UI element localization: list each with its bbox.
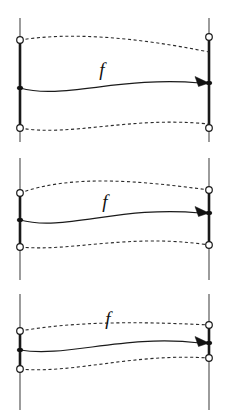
- endpoint-circle-right-top: [206, 322, 213, 329]
- map-curve: [20, 82, 200, 92]
- map-curve: [20, 211, 200, 223]
- endpoint-circle-left-top: [17, 328, 24, 335]
- dashed-curve-bottom: [20, 241, 209, 248]
- basepoint-dot-left: [17, 219, 22, 222]
- basepoint-dot-right: [206, 82, 211, 85]
- dashed-curve-bottom: [20, 357, 209, 370]
- basepoint-dot-left: [17, 349, 22, 352]
- map-curve: [20, 341, 200, 352]
- dashed-curve-bottom: [20, 122, 209, 130]
- endpoint-circle-right-bottom: [206, 355, 213, 362]
- endpoint-circle-right-top: [206, 34, 213, 41]
- map-label-3: f: [105, 308, 113, 329]
- dashed-curve-top: [20, 323, 209, 331]
- map-label-1: f: [99, 59, 107, 80]
- basepoint-dot-right: [206, 212, 211, 215]
- endpoint-circle-right-bottom: [206, 125, 213, 132]
- figure-canvas: fff: [0, 0, 229, 420]
- endpoint-circle-right-top: [206, 187, 213, 194]
- panel-2: f: [17, 158, 213, 280]
- panel-1: f: [17, 18, 213, 142]
- homotopy-fiber-figure: fff: [0, 0, 229, 420]
- dashed-curve-top: [20, 181, 209, 193]
- basepoint-dot-right: [206, 342, 211, 345]
- basepoint-dot-left: [17, 87, 22, 90]
- map-label-2: f: [102, 191, 110, 212]
- endpoint-circle-right-bottom: [206, 242, 213, 249]
- endpoint-circle-left-top: [17, 190, 24, 197]
- panel-3: f: [17, 294, 213, 410]
- endpoint-circle-left-bottom: [17, 125, 24, 132]
- endpoint-circle-left-bottom: [17, 366, 24, 373]
- endpoint-circle-left-bottom: [17, 244, 24, 251]
- endpoint-circle-left-top: [17, 37, 24, 44]
- dashed-curve-top: [20, 36, 209, 52]
